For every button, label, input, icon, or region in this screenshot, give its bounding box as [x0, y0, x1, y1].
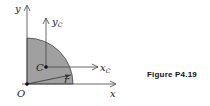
x-axis-label: x	[110, 88, 116, 99]
centroid-point	[44, 65, 48, 69]
xc-axis-label: xC	[100, 62, 111, 74]
yc-axis-label: yC	[51, 16, 63, 28]
origin-label: O	[17, 88, 25, 99]
y-axis-label: y	[14, 3, 21, 14]
centroid-label: C	[36, 62, 44, 73]
figure-diagram: y x O C r yC xC	[0, 0, 210, 106]
figure-caption: Figure P4.19	[147, 70, 197, 79]
origin-point	[25, 82, 29, 86]
